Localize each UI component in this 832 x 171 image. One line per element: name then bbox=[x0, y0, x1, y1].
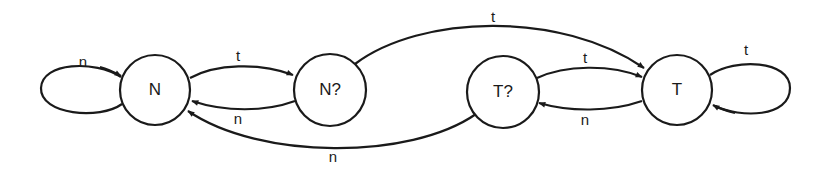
transition-label: n bbox=[234, 110, 242, 127]
transition-T-Tq: n bbox=[539, 101, 642, 128]
transition-label: t bbox=[236, 47, 241, 64]
transition-N-N: n bbox=[41, 53, 122, 113]
state-label: T bbox=[672, 80, 682, 99]
transition-label: t bbox=[744, 41, 749, 58]
state-N: N bbox=[120, 55, 190, 125]
transition-N-Nq: t bbox=[190, 47, 293, 78]
state-T-question: T? bbox=[467, 56, 539, 128]
transition-T-T: t bbox=[710, 41, 790, 113]
transition-label: n bbox=[581, 111, 589, 128]
state-N-question: N? bbox=[294, 54, 366, 126]
state-label: N bbox=[149, 80, 161, 99]
transition-Tq-T: t bbox=[537, 49, 642, 78]
transition-label: n bbox=[329, 148, 337, 165]
transition-label: t bbox=[491, 8, 496, 25]
state-T: T bbox=[642, 55, 712, 125]
state-label: T? bbox=[493, 82, 513, 101]
transition-label: n bbox=[79, 53, 87, 70]
state-label: N? bbox=[319, 80, 341, 99]
transition-label: t bbox=[583, 49, 588, 66]
state-diagram: n t n t t n n t N N? bbox=[0, 0, 832, 171]
